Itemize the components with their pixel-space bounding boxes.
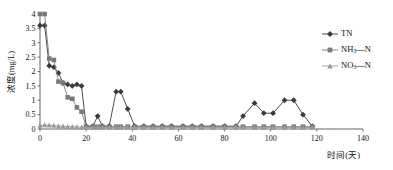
legend-label: NH3—N xyxy=(341,44,371,55)
marker-diamond xyxy=(65,82,71,88)
legend-item-triangle: NO3—N xyxy=(322,60,371,71)
marker-diamond xyxy=(42,23,48,29)
marker-diamond xyxy=(79,83,85,89)
marker-square xyxy=(47,56,52,61)
y-tick-label: 0 xyxy=(32,125,36,134)
marker-square xyxy=(38,12,43,17)
marker-square xyxy=(70,97,75,102)
y-tick-label: 1.5 xyxy=(26,82,36,91)
marker-square xyxy=(328,48,333,53)
legend-item-square: NH3—N xyxy=(322,44,371,55)
data-series-layer xyxy=(37,12,315,130)
y-axis-ticks: 00.511.522.533.54 xyxy=(26,10,41,134)
marker-square xyxy=(65,95,70,100)
y-tick-label: 1 xyxy=(32,96,36,105)
marker-square xyxy=(61,81,66,86)
y-axis: 00.511.522.533.54 xyxy=(26,10,41,134)
marker-diamond xyxy=(95,113,101,119)
x-tick-label: 120 xyxy=(311,134,323,143)
series-diamond xyxy=(37,23,315,129)
marker-square xyxy=(56,79,61,84)
x-tick-label: 40 xyxy=(128,134,136,143)
legend: TNNH3—NNO3—N xyxy=(322,28,371,71)
marker-diamond xyxy=(69,83,75,89)
x-axis: 020406080100120140 xyxy=(38,129,369,143)
marker-square xyxy=(79,109,84,114)
marker-diamond xyxy=(125,106,131,112)
marker-square xyxy=(42,12,47,17)
y-tick-label: 4 xyxy=(32,10,36,19)
x-tick-label: 20 xyxy=(82,134,90,143)
x-tick-label: 0 xyxy=(38,134,42,143)
y-axis-title: 浓度(mg/L) xyxy=(6,51,16,93)
marker-diamond xyxy=(291,97,297,103)
marker-diamond xyxy=(118,89,124,95)
y-tick-label: 2 xyxy=(32,67,36,76)
legend-label: NO3—N xyxy=(341,60,371,71)
y-tick-label: 3 xyxy=(32,39,36,48)
y-tick-label: 0.5 xyxy=(26,110,36,119)
legend-label: TN xyxy=(341,28,352,38)
marker-diamond xyxy=(74,82,80,88)
legend-item-diamond: TN xyxy=(322,28,352,38)
marker-square xyxy=(52,58,57,63)
marker-diamond xyxy=(46,63,52,69)
y-tick-label: 3.5 xyxy=(26,24,36,33)
x-tick-label: 80 xyxy=(221,134,229,143)
marker-diamond xyxy=(327,31,333,37)
marker-square xyxy=(75,105,80,110)
x-tick-label: 100 xyxy=(265,134,277,143)
x-tick-label: 60 xyxy=(174,134,182,143)
x-tick-label: 140 xyxy=(357,134,369,143)
y-tick-label: 2.5 xyxy=(26,53,36,62)
chart-container: 00.511.522.533.54 020406080100120140 时间(… xyxy=(0,0,393,170)
line-chart: 00.511.522.533.54 020406080100120140 时间(… xyxy=(0,0,393,170)
x-axis-title: 时间(天) xyxy=(327,150,360,160)
x-axis-ticks: 020406080100120140 xyxy=(38,129,369,143)
y-axis-title-group: 浓度(mg/L) xyxy=(6,51,16,93)
